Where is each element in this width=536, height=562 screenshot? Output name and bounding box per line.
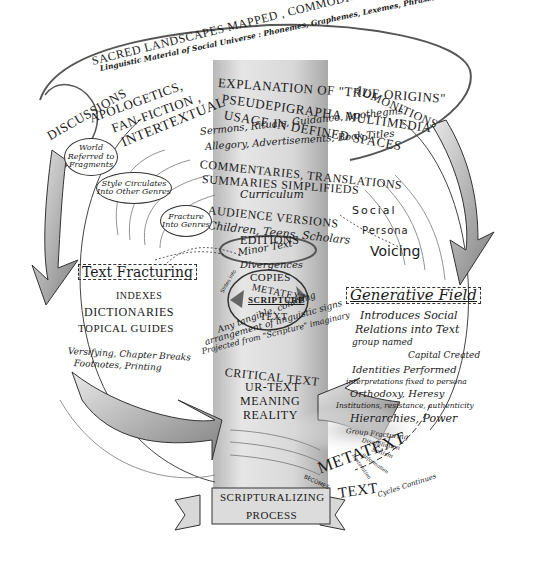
bubble-world-fragments: World Referred to Fragments [64,138,118,176]
text-fracturing-topical-guides: TOPICAL GUIDES [78,323,174,334]
generative-line-8: Institutions, resistance, authenticity [336,402,474,410]
arrow-right-down [432,120,494,285]
text-fracturing-dictionaries: DICTIONARIES [84,306,174,318]
banner-tail-left [175,495,200,530]
banner-line2: PROCESS [246,510,297,521]
generative-line-9: Hierarchies, Power [350,413,457,424]
meaning: MEANING [240,395,300,407]
bubble-fracture-genres: Fracture Into Genres [160,205,212,237]
reality: REALITY [243,409,298,421]
social-label: Social [352,205,397,216]
generative-line-2: Relations into Text [355,324,459,335]
generative-line-5: Identities Performed [352,365,457,375]
generative-line-1: Introduces Social [360,310,458,321]
generative-line-3: group named [352,338,413,347]
arrow-left-down [32,150,78,305]
generative-line-6: interpretations fixed to persona [346,378,467,386]
copies-line2: Divergences [240,260,303,270]
text-fracturing-heading: Text Fracturing [78,264,197,280]
uses-line5: Curriculum [240,189,304,200]
text-fracturing-indexes: INDEXES [116,291,162,301]
persona-label: Persona [362,226,409,236]
generative-line-4: Capital Created [408,351,480,360]
scripturalizing-diagram: SACRED LANDSCAPES MAPPED , COMMODITIES, … [0,0,536,562]
voicing-label: Voicing [370,244,420,258]
banner-line1: SCRIPTURALIZING [220,492,325,503]
ur-text: UR-TEXT [245,381,300,393]
generative-line-7: Orthodoxy, Heresy [350,389,444,399]
generative-field-heading: Generative Field [346,287,481,304]
bubble-style-circulates: Style Circulates Into Other Genres [96,172,172,204]
